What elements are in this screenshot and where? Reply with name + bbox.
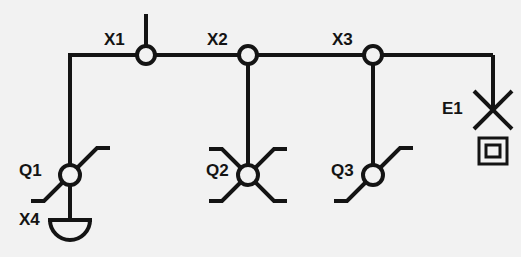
node-x4[interactable] [48, 220, 92, 240]
q3-arm-lower-left [334, 182, 366, 201]
q1-arm-lower-left [31, 182, 63, 201]
q2-arm-lower-right [255, 182, 287, 201]
x4-socket-arc [50, 220, 90, 240]
q2-arm-lower-left [209, 182, 241, 201]
node-x2[interactable] [239, 46, 257, 64]
label-q3: Q3 [331, 162, 354, 179]
label-q2: Q2 [206, 162, 229, 179]
q2-switch-circle[interactable] [238, 165, 258, 185]
q1-arm-upper-right [77, 148, 110, 168]
x3-junction-circle[interactable] [364, 46, 382, 64]
e1-inner-square [486, 145, 500, 157]
schematic-diagram: X1 X2 X3 Q1 Q2 Q3 X4 E1 [0, 0, 521, 257]
wire-drops [70, 62, 373, 220]
label-x3: X3 [332, 31, 353, 48]
x2-junction-circle[interactable] [239, 46, 257, 64]
x1-junction-circle[interactable] [137, 46, 155, 64]
e1-outer-square [479, 138, 507, 164]
label-x2: X2 [207, 31, 228, 48]
q1-switch-circle[interactable] [60, 165, 80, 185]
q3-switch-circle[interactable] [363, 165, 383, 185]
label-q1: Q1 [19, 162, 42, 179]
q3-arm-upper-right [380, 148, 413, 168]
label-x4: X4 [19, 211, 40, 228]
node-x1[interactable] [137, 14, 155, 64]
node-x3[interactable] [364, 46, 382, 64]
label-e1: E1 [442, 100, 463, 117]
label-x1: X1 [104, 31, 125, 48]
q2-arm-upper-right [255, 149, 287, 168]
schematic-canvas [0, 0, 521, 257]
